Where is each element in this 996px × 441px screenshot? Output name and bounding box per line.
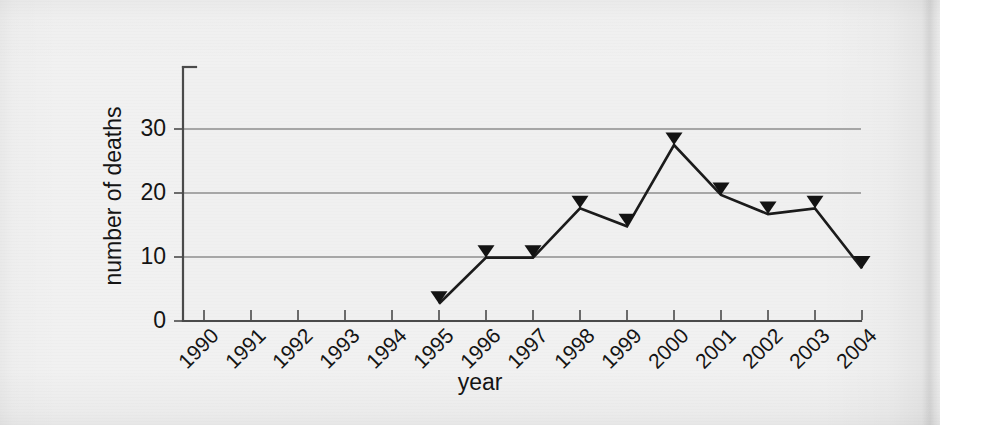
x-tick-label-2003: 2003 [785, 324, 834, 373]
y-tick-label-0: 0 [153, 307, 166, 333]
line-chart: 0102030 19901991199219931994199519961997… [0, 0, 940, 425]
chart-svg: 0102030 19901991199219931994199519961997… [0, 0, 940, 425]
x-tick-label-2004: 2004 [832, 323, 882, 373]
y-tick-label-30: 30 [140, 115, 166, 141]
x-tick-label-1990: 1990 [174, 324, 223, 373]
x-tick-label-2000: 2000 [644, 324, 693, 373]
y-tick-label-20: 20 [140, 179, 166, 205]
x-tick-label-1997: 1997 [503, 324, 552, 373]
x-tick-labels-group: 1990199119921993199419951996199719981999… [174, 323, 882, 373]
x-tick-label-1991: 1991 [221, 324, 270, 373]
x-tick-label-2001: 2001 [691, 324, 740, 373]
y-axis-title: number of deaths [100, 106, 126, 285]
scanned-page: 0102030 19901991199219931994199519961997… [0, 0, 996, 441]
x-tick-label-1998: 1998 [550, 324, 599, 373]
y-tick-labels-group: 0102030 [140, 115, 166, 333]
x-tick-label-1994: 1994 [362, 323, 412, 373]
x-tick-label-1992: 1992 [268, 324, 317, 373]
x-tick-label-1993: 1993 [315, 324, 364, 373]
x-tick-label-1995: 1995 [409, 324, 458, 373]
x-tick-label-1996: 1996 [456, 324, 505, 373]
x-tick-label-1999: 1999 [597, 324, 646, 373]
x-axis-title: year [458, 369, 503, 395]
y-tick-label-10: 10 [140, 243, 166, 269]
x-tick-label-2002: 2002 [738, 324, 787, 373]
plot-area [183, 67, 860, 321]
